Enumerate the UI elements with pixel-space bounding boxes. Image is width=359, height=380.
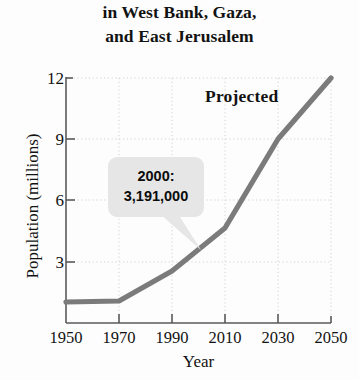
x-tick-marks	[119, 314, 278, 323]
y-tick-marks	[66, 139, 75, 262]
callout-year-line: 2000:	[108, 166, 204, 186]
callout-value-line: 3,191,000	[108, 186, 204, 206]
population-line-chart: Population in West Bank, Gaza, and East …	[0, 0, 359, 380]
x-tick-label-1990: 1990	[146, 329, 198, 346]
y-tick-label-9: 9	[24, 131, 64, 148]
y-tick-label-6: 6	[24, 192, 64, 209]
callout-tail	[160, 214, 201, 250]
x-tick-label-2050: 2050	[305, 329, 357, 346]
data-callout: 2000: 3,191,000	[108, 157, 204, 217]
x-tick-label-2010: 2010	[199, 329, 251, 346]
projected-label: Projected	[205, 86, 278, 107]
x-tick-label-2030: 2030	[252, 329, 304, 346]
y-tick-label-12: 12	[24, 70, 64, 87]
y-tick-label-3: 3	[24, 254, 64, 271]
x-tick-label-1950: 1950	[40, 329, 92, 346]
x-tick-label-1970: 1970	[93, 329, 145, 346]
